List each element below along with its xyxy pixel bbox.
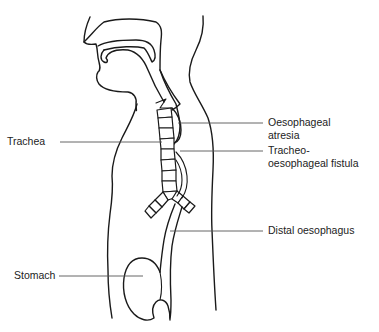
label-distal-oesophagus: Distal oesophagus [268,224,354,237]
label-stomach: Stomach [14,269,55,282]
distal-oesophagus-right [170,207,182,318]
head-top [84,19,180,110]
back-outline [189,16,216,310]
label-oesophageal-atresia-line2: atresia [268,129,330,142]
label-oesophageal-atresia: Oesophageal atresia [268,116,330,142]
front-body-outline [108,104,137,318]
label-fistula-line2: oesophageal fistula [268,157,359,170]
epiglottis [156,99,172,108]
stomach [123,258,170,320]
face-profile [84,17,136,111]
label-fistula-line1: Tracheo- [268,144,359,157]
stomach-fold [160,272,162,300]
trachea [145,108,195,218]
label-trachea: Trachea [7,135,45,148]
label-tracheo-oesophageal-fistula: Tracheo- oesophageal fistula [268,144,359,170]
label-oesophageal-atresia-line1: Oesophageal [268,116,330,129]
